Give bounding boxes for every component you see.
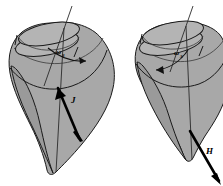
right-omega-label: ω [174, 49, 179, 57]
right-h-vector-head [211, 173, 221, 185]
figure-root: ω 3 J [0, 0, 223, 186]
left-figure: ω 3 J [9, 6, 114, 174]
right-h-label: H [205, 146, 214, 156]
diagram-canvas: ω 3 J [0, 0, 223, 186]
right-figure: ω 3 H [135, 6, 223, 185]
right-omega-subscript: 3 [179, 54, 183, 59]
left-j-label: J [70, 95, 76, 105]
left-omega-label: ω [56, 48, 61, 56]
left-omega-subscript: 3 [61, 53, 65, 58]
